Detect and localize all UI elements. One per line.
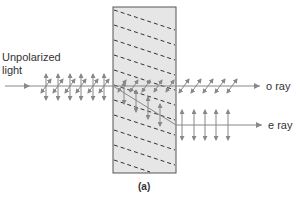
birefringence-diagram xyxy=(0,0,300,201)
e-ray-label: e ray xyxy=(268,119,292,132)
incident-label: Unpolarized light xyxy=(2,51,61,77)
calcite-crystal xyxy=(113,7,176,173)
incident-label-line1: Unpolarized xyxy=(2,51,61,64)
figure-caption: (a) xyxy=(138,180,150,193)
o-ray-label: o ray xyxy=(266,80,290,93)
o-ray xyxy=(176,79,260,93)
e-ray xyxy=(176,110,262,140)
incident-label-line2: light xyxy=(2,64,61,77)
incident-ray xyxy=(5,74,113,100)
